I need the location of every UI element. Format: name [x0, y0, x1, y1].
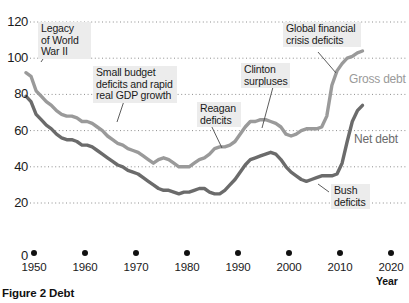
x-tick-1970: 1970 — [113, 262, 159, 274]
annotation-bush-deficits: Bush deficits — [331, 184, 370, 209]
series-label-net-debt: Net debt — [352, 133, 400, 146]
figure-caption: Figure 2 Debt — [2, 287, 74, 299]
series-line-net-debt — [26, 96, 363, 194]
x-tick-dot-1990 — [235, 250, 241, 256]
x-tick-dot-1970 — [133, 250, 139, 256]
series-line-gross-debt — [26, 51, 363, 167]
x-tick-1960: 1960 — [62, 262, 108, 274]
x-tick-dot-1950 — [31, 250, 37, 256]
x-tick-dot-1960 — [82, 250, 88, 256]
x-tick-dot-1980 — [184, 250, 190, 256]
annotation-global-financial-crisis: Global financial crisis deficits — [283, 22, 361, 47]
y-tick-20: 20 — [0, 196, 28, 209]
annotation-wwii: Legacy of World War II — [38, 22, 91, 59]
x-tick-1980: 1980 — [164, 262, 210, 274]
y-tick-80: 80 — [0, 87, 28, 100]
y-tick-60: 60 — [0, 124, 28, 137]
annotation-reagan-deficits: Reagan deficits — [197, 102, 241, 127]
x-tick-dot-2020 — [388, 250, 394, 256]
series-group — [26, 51, 363, 194]
figure-debt: Percentage of GDP 120 100 80 60 40 20 0 … — [0, 0, 409, 303]
x-tick-dot-2010 — [337, 250, 343, 256]
y-tick-40: 40 — [0, 160, 28, 173]
x-tick-dot-2000 — [286, 250, 292, 256]
x-tick-1950: 1950 — [11, 262, 57, 274]
annotation-leader-lines — [41, 46, 336, 192]
x-tick-2020: 2020 — [368, 262, 409, 274]
x-tick-2010: 2010 — [317, 262, 363, 274]
series-label-gross-debt: Gross debt — [347, 73, 408, 86]
annotation-clinton-surpluses: Clinton surpluses — [241, 63, 290, 88]
y-tick-120: 120 — [0, 15, 28, 28]
annotation-small-budget-deficits: Small budget deficits and rapid real GDP… — [93, 66, 177, 103]
x-tick-2000: 2000 — [266, 262, 312, 274]
x-tick-1990: 1990 — [215, 262, 261, 274]
y-tick-100: 100 — [0, 51, 28, 64]
x-axis-title: Year — [376, 275, 398, 287]
